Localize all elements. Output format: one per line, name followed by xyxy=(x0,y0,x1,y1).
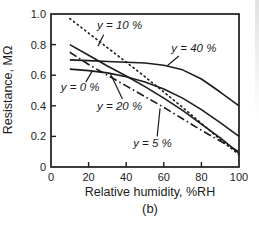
y-tick-label: 0 xyxy=(40,161,46,173)
x-axis-label: Relative humidity, %RH xyxy=(85,185,215,199)
x-tick-label: 0 xyxy=(48,171,54,183)
label-y-10: y = 10 % xyxy=(96,19,142,31)
label-y-40: y = 40 % xyxy=(170,42,216,54)
label-y-5-leader xyxy=(157,108,160,136)
label-y-20-leader xyxy=(110,73,122,99)
y-tick-label: 0.8 xyxy=(31,39,46,51)
y-axis-label: Resistance, MΩ xyxy=(1,46,15,135)
label-y-40-leader xyxy=(168,56,179,65)
scan-artifact-edge xyxy=(255,0,259,120)
y-tick-label: 0.6 xyxy=(31,69,46,81)
x-tick-label: 20 xyxy=(82,171,94,183)
label-y-5: y = 5 % xyxy=(132,137,172,149)
label-y-0: y = 0 % xyxy=(60,81,100,93)
x-tick-label: 100 xyxy=(230,171,248,183)
y-tick-label: 1.0 xyxy=(31,8,46,20)
label-y-20: y = 20 % xyxy=(96,100,142,112)
humidity-resistance-figure: 02040608010000.20.40.60.81.0y = 10 %y = … xyxy=(0,0,259,226)
y-tick-label: 0.2 xyxy=(31,130,46,142)
plot-area: 02040608010000.20.40.60.81.0y = 10 %y = … xyxy=(31,8,248,183)
resistance-vs-humidity-chart: 02040608010000.20.40.60.81.0y = 10 %y = … xyxy=(0,0,259,226)
label-y-0-leader xyxy=(86,71,93,82)
figure-caption: (b) xyxy=(142,201,158,216)
x-tick-label: 60 xyxy=(158,171,170,183)
y-tick-label: 0.4 xyxy=(31,100,46,112)
x-tick-label: 80 xyxy=(195,171,207,183)
x-tick-label: 40 xyxy=(120,171,132,183)
